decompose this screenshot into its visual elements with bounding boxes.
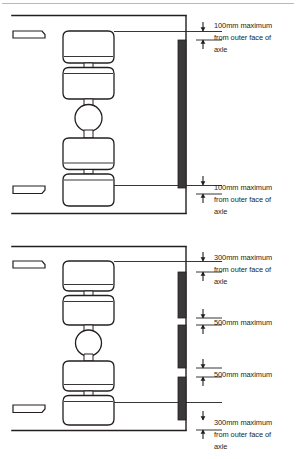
label-line-1: 500mm maximum (214, 318, 272, 327)
hub-circle-bottom (76, 330, 102, 356)
tyre-1-top (63, 31, 114, 63)
suspension-bar-upper-bottom (13, 261, 45, 268)
label-bottom-300mm-upper: 300mm maximum from outer face of axle (214, 253, 272, 286)
spray-suppression-panel-top (178, 40, 186, 188)
spray-suppression-panel-segment-3 (178, 377, 186, 420)
tyre-1-bottom (63, 261, 114, 291)
suspension-bar-lower-bottom (13, 405, 45, 413)
figure-top-svg: 100mm maximum from outer face of axle 10… (0, 0, 296, 230)
tyre-3-top (63, 138, 114, 170)
label-line-3: axle (214, 442, 227, 451)
label-line-2: from outer face of (214, 33, 272, 42)
spray-suppression-panels-bottom (178, 272, 186, 420)
label-top-lower-100mm: 100mm maximum from outer face of axle (214, 183, 272, 216)
witness-lines-top (114, 32, 222, 186)
label-line-1: 300mm maximum (214, 253, 272, 262)
wheel-assembly-top (63, 31, 114, 206)
label-line-2: from outer face of (214, 430, 272, 439)
label-bottom-300mm-lower: 300mm maximum from outer face of axle (214, 418, 272, 451)
tyre-2-bottom (63, 296, 114, 326)
tyre-spacer-2-bottom (84, 391, 93, 396)
tyre-spacer-2-top (84, 170, 93, 175)
tyre-spacer-1-bottom (84, 291, 93, 296)
tyre-4-top (63, 174, 114, 206)
tyre-2-top (63, 68, 114, 100)
figure-bottom-300-500mm: 300mm maximum from outer face of axle 50… (0, 230, 296, 459)
tyre-3-bottom (63, 361, 114, 391)
figure-bottom-svg: 300mm maximum from outer face of axle 50… (0, 230, 296, 459)
axle-stub-lower-top (84, 130, 93, 138)
suspension-bar-upper-top (13, 31, 45, 38)
suspension-bar-lower-top (13, 186, 45, 194)
label-bottom-500mm-upper: 500mm maximum (214, 318, 272, 327)
axle-stub-lower-bottom (84, 354, 93, 361)
tyre-4-bottom (63, 396, 114, 426)
spray-suppression-panel-segment-1 (178, 272, 186, 318)
spray-suppression-panel-segment-2 (178, 325, 186, 368)
label-line-1: 100mm maximum (214, 21, 272, 30)
label-bottom-500mm-lower: 500mm maximum (214, 370, 272, 379)
wheel-assembly-bottom (63, 261, 114, 425)
label-line-1: 500mm maximum (214, 370, 272, 379)
label-line-3: axle (214, 277, 227, 286)
tyre-spacer-1-top (84, 63, 93, 68)
label-line-2: from outer face of (214, 265, 272, 274)
diagram-page: 100mm maximum from outer face of axle 10… (0, 0, 296, 459)
label-line-2: from outer face of (214, 195, 272, 204)
label-top-upper-100mm: 100mm maximum from outer face of axle (214, 21, 272, 54)
figure-top-100mm: 100mm maximum from outer face of axle 10… (0, 0, 296, 230)
label-line-3: axle (214, 45, 227, 54)
label-line-1: 300mm maximum (214, 418, 272, 427)
label-line-1: 100mm maximum (214, 183, 272, 192)
label-line-3: axle (214, 207, 227, 216)
hub-circle-top (75, 105, 102, 132)
witness-lines-bottom (114, 262, 222, 403)
